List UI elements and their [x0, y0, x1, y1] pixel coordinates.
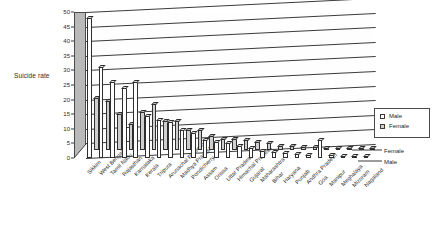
y-axis-tick-label: 50 — [63, 9, 70, 15]
bar-female — [347, 148, 352, 150]
legend-swatch-male — [380, 114, 385, 119]
bar-female — [290, 146, 295, 150]
bar-female — [301, 147, 306, 151]
bar-top-face — [174, 119, 181, 122]
legend-label-male: Male — [389, 113, 402, 119]
bar-top-face — [225, 141, 232, 144]
bar-male — [133, 82, 138, 158]
bar-male — [180, 130, 185, 158]
bar-female — [359, 148, 364, 150]
bar-female — [117, 114, 122, 151]
y-axis-tick-label: 15 — [63, 111, 70, 117]
legend-item-female: Female — [380, 123, 429, 129]
left-wall — [74, 12, 86, 158]
bar-top-face — [282, 151, 289, 154]
bar-female — [278, 146, 283, 150]
chart-figure: Suicide rate 05101520253035404550 Sikkim… — [0, 0, 444, 245]
bar-male — [168, 122, 173, 159]
bar-male — [318, 140, 323, 158]
bar-male — [329, 155, 334, 158]
bar-male — [341, 156, 346, 158]
bar-top-face — [266, 141, 273, 144]
bar-top-face — [277, 144, 284, 147]
bar-female — [209, 136, 214, 151]
bar-male — [272, 152, 277, 158]
bar-top-face — [86, 16, 93, 19]
bar-male — [364, 156, 369, 158]
bar-female — [255, 142, 260, 151]
bar-top-face — [231, 137, 238, 140]
bar-female — [370, 148, 375, 150]
bar-top-face — [121, 86, 128, 89]
y-axis-tick-label: 0 — [67, 155, 70, 161]
y-axis-tick-label: 5 — [67, 140, 70, 146]
bar-female — [175, 121, 180, 150]
bar-female — [94, 98, 99, 151]
y-axis-tick-label: 30 — [63, 67, 70, 73]
bar-female — [313, 147, 318, 150]
bar-female — [267, 143, 272, 150]
y-axis-tick-label: 45 — [63, 24, 70, 30]
bar-top-face — [271, 150, 278, 153]
series-label-female: Female — [384, 148, 404, 154]
bar-male — [260, 151, 265, 158]
bar-male — [249, 148, 254, 158]
bar-top-face — [243, 138, 250, 141]
legend-swatch-female — [380, 124, 385, 129]
bar-top-face — [190, 131, 197, 134]
series-label-male: Male — [384, 159, 397, 165]
bar-male — [306, 155, 311, 159]
bar-top-face — [317, 138, 324, 141]
series-axis-leader-lines — [352, 142, 386, 164]
bar-female — [129, 124, 134, 150]
bar-female — [336, 148, 341, 150]
bar-male — [214, 142, 219, 158]
bar-top-face — [98, 65, 105, 68]
bar-top-face — [340, 154, 347, 157]
bar-male — [352, 156, 357, 158]
bar-male — [237, 146, 242, 158]
y-axis-tick-label: 10 — [63, 126, 70, 132]
bar-female — [163, 121, 168, 150]
bar-top-face — [151, 102, 158, 105]
bar-top-face — [254, 140, 261, 143]
bar-male — [283, 153, 288, 158]
bar-top-face — [294, 152, 301, 155]
legend-item-male: Male — [380, 113, 429, 119]
bar-top-face — [213, 140, 220, 143]
bar-top-face — [248, 146, 255, 149]
bar-male — [99, 67, 104, 158]
bar-top-face — [323, 146, 330, 149]
legend-label-female: Female — [389, 123, 409, 129]
bar-male — [157, 120, 162, 158]
bar-female — [140, 112, 145, 150]
bar-female — [106, 101, 111, 151]
plot-area — [74, 12, 374, 170]
bar-male — [226, 143, 231, 158]
bar-female — [221, 139, 226, 151]
bar-female — [232, 139, 237, 151]
bar-top-face — [328, 153, 335, 156]
bar-male — [145, 116, 150, 158]
y-axis: 05101520253035404550 — [52, 10, 74, 170]
bar-top-face — [335, 146, 342, 149]
bar-female — [152, 104, 157, 151]
legend: Male Female — [374, 108, 430, 138]
bar-female — [324, 148, 329, 150]
bar-male — [203, 140, 208, 158]
bar-top-face — [144, 114, 151, 117]
y-axis-tick-label: 35 — [63, 53, 70, 59]
bar-top-face — [202, 138, 209, 141]
bar-male — [110, 82, 115, 158]
bar-top-face — [167, 120, 174, 123]
y-axis-tick-label: 20 — [63, 97, 70, 103]
bar-male — [191, 133, 196, 158]
bar-top-face — [305, 153, 312, 156]
y-axis-tick-label: 40 — [63, 38, 70, 44]
bar-male — [87, 18, 92, 158]
bar-top-face — [289, 144, 296, 147]
bar-male — [122, 88, 127, 158]
bar-male — [295, 154, 300, 158]
y-axis-tick-label: 25 — [63, 82, 70, 88]
bar-top-face — [236, 144, 243, 147]
